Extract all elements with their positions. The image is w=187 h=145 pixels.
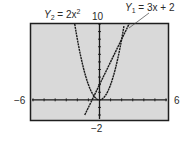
y1-rhs: = 3x + 2 [138,2,174,13]
y2-sup: 2 [77,8,81,15]
y1-equation-label: Y1 = 3x + 2 [125,3,175,13]
y1-var: Y [125,2,132,13]
y-max-label: 10 [92,12,103,22]
y2-var: Y [44,9,51,20]
y2-sub: 2 [51,14,55,21]
y-min-label: −2 [91,124,102,134]
y2-equation-label: Y2 = 2x2 [44,10,80,20]
x-max-label: 6 [174,96,180,106]
x-min-label: −6 [14,96,25,106]
y2-rhs: = 2x [57,9,76,20]
y1-sub: 1 [132,7,136,14]
